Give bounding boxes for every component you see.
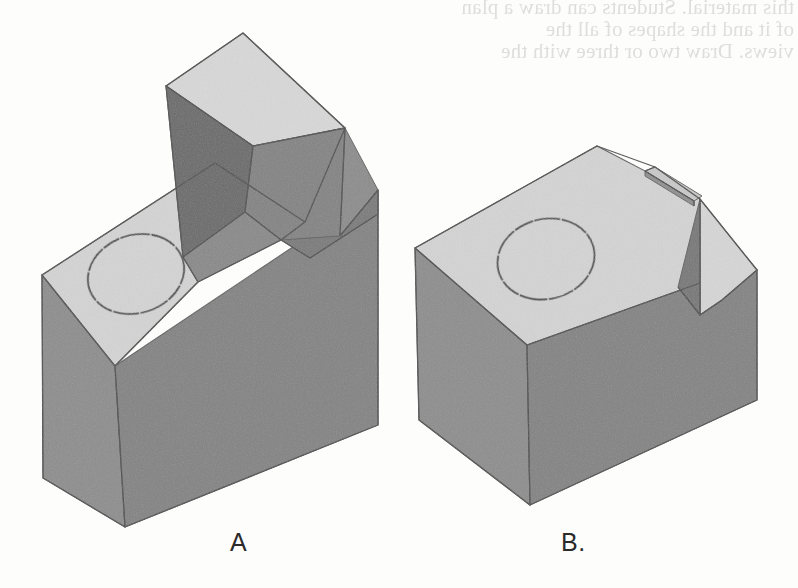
figure-a-label: A	[230, 528, 247, 557]
figure-page: this material. Students can draw a plan …	[0, 0, 798, 588]
isometric-blocks-illustration	[0, 0, 798, 588]
figure-a-block	[42, 33, 378, 527]
figure-b-label: B.	[561, 528, 586, 557]
figure-b-block	[415, 146, 757, 505]
